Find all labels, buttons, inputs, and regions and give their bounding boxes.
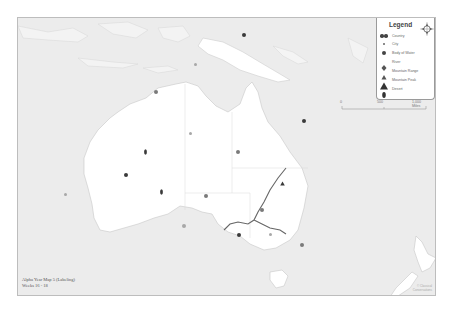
legend-panel: Legend Country City	[376, 18, 435, 100]
mountain-range-marker-icon	[379, 67, 389, 75]
legend-item-mountain-range: Mountain Range	[379, 67, 418, 75]
australia-mainland	[84, 82, 308, 250]
body-of-water-marker-icon[interactable]	[204, 194, 208, 198]
legend-item-country: Country	[379, 32, 405, 40]
body-of-water-marker-icon	[379, 49, 389, 57]
body-of-water-marker-icon[interactable]	[154, 90, 158, 94]
city-marker-icon[interactable]	[64, 193, 67, 196]
legend-item-desert: Desert	[379, 85, 403, 93]
river-marker-icon	[379, 58, 389, 66]
legend-item-city: City	[379, 40, 398, 48]
desert-marker-icon	[379, 85, 389, 93]
map-canvas	[18, 18, 436, 296]
legend-item-river: River	[379, 58, 400, 66]
compass-rose-icon	[420, 22, 434, 36]
map-caption: Alpha Year Map 5 (Labeling) Weeks 16 - 1…	[22, 277, 75, 289]
body-of-water-marker-icon[interactable]	[260, 208, 264, 212]
city-marker-icon[interactable]	[269, 233, 272, 236]
body-of-water-marker-icon[interactable]	[302, 119, 306, 123]
scale-bar: 0 500 1,000 Miles	[340, 100, 430, 118]
map-frame: Legend Country City	[17, 17, 436, 296]
city-marker-icon	[379, 40, 389, 48]
legend-item-mountain-peak: Mountain Peak	[379, 76, 416, 84]
map-credit: © Classical Conversations	[413, 284, 432, 292]
legend-title: Legend	[389, 21, 412, 28]
mountain-peak-marker-icon	[379, 76, 389, 84]
new-guinea	[198, 38, 290, 82]
tasmania	[270, 270, 288, 288]
city-marker-icon[interactable]	[194, 63, 197, 66]
desert-marker-icon[interactable]	[160, 181, 163, 199]
body-of-water-marker-icon[interactable]	[182, 224, 186, 228]
body-of-water-marker-icon[interactable]	[242, 33, 246, 37]
mountain-range-marker-icon[interactable]	[280, 172, 285, 190]
body-of-water-marker-icon[interactable]	[300, 243, 304, 247]
scale-bar-line	[340, 100, 430, 118]
desert-marker-icon[interactable]	[144, 141, 147, 159]
body-of-water-marker-icon[interactable]	[236, 150, 240, 154]
legend-item-body-of-water: Body of Water	[379, 49, 415, 57]
map-subtitle: Weeks 16 - 18	[22, 283, 75, 289]
country-marker-icon	[379, 32, 389, 40]
city-marker-icon[interactable]	[189, 132, 192, 135]
body-of-water-marker-icon[interactable]	[237, 233, 241, 237]
body-of-water-marker-icon[interactable]	[124, 173, 128, 177]
